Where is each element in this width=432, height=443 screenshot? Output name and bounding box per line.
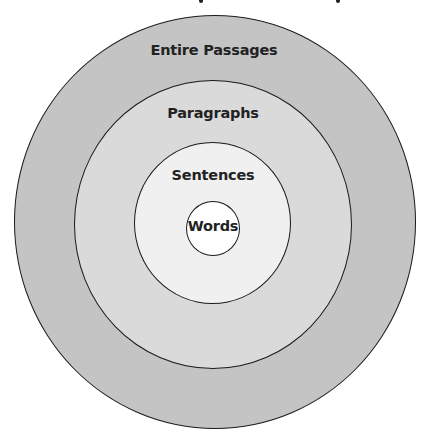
label-paragraphs: Paragraphs <box>167 105 259 121</box>
label-entire-passages: Entire Passages <box>150 42 277 58</box>
cropped-title-fragment <box>336 0 340 3</box>
label-sentences: Sentences <box>172 167 255 183</box>
label-words: Words <box>188 218 239 234</box>
cropped-title-fragment <box>199 0 203 3</box>
concentric-circles-diagram: Entire Passages Paragraphs Sentences Wor… <box>0 0 432 443</box>
